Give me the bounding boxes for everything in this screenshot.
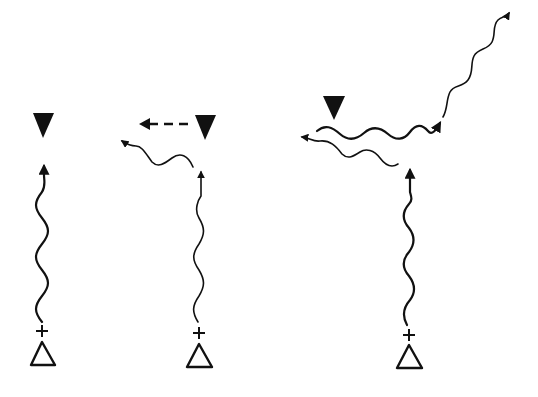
panel-3: [302, 13, 509, 368]
panel-1: [31, 113, 55, 365]
wavy-arrow-up-right: [443, 13, 509, 117]
target-filled-triangle-icon: [195, 115, 216, 140]
vertical-wavy-arrow: [194, 172, 204, 322]
source-open-triangle-icon: [187, 344, 212, 367]
panel-2: [122, 115, 216, 367]
target-filled-triangle-icon: [323, 96, 345, 120]
plus-sign-icon: [193, 327, 205, 339]
plus-sign-icon: [36, 325, 48, 337]
target-filled-triangle-icon: [33, 113, 54, 138]
dashed-arrow-head-icon: [139, 118, 150, 130]
source-open-triangle-icon: [397, 345, 422, 368]
vertical-wavy-arrow: [404, 170, 414, 325]
wavy-arrow-right: [317, 123, 440, 139]
source-open-triangle-icon: [31, 342, 55, 365]
vertical-wavy-arrow: [36, 166, 48, 322]
plus-sign-icon: [403, 329, 415, 341]
diagram-canvas: [0, 0, 538, 397]
wavy-arrow-left: [122, 141, 193, 167]
wavy-arrow-left: [302, 137, 398, 166]
